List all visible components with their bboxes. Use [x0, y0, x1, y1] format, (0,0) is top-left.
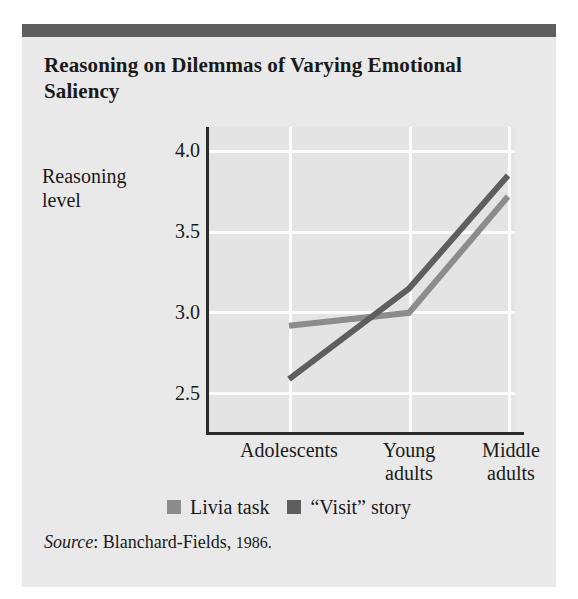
y-tick-3_5: 3.5 [154, 220, 200, 243]
series-line-visit-story [289, 176, 508, 380]
legend-swatch-livia-task [167, 500, 181, 514]
y-axis-title: Reasoning level [42, 164, 152, 212]
x-category-middle-adults-line1: Middle [482, 439, 540, 461]
figure-page: Reasoning on Dilemmas of Varying Emotion… [0, 0, 578, 599]
figure-title: Reasoning on Dilemmas of Varying Emotion… [44, 52, 464, 104]
source-text: Blanchard-Fields, [103, 532, 236, 552]
x-category-young-adults-line1: Young [383, 439, 435, 461]
x-category-middle-adults: Middle adults [457, 439, 565, 485]
figure-card: Reasoning on Dilemmas of Varying Emotion… [22, 24, 556, 587]
x-category-labels: Adolescents Young adults Middle adults [207, 439, 527, 499]
y-tick-4: 4.0 [154, 139, 200, 162]
x-category-young-adults-line2: adults [385, 462, 433, 484]
y-tick-labels: 4.0 3.5 3.0 2.5 [140, 127, 200, 434]
legend-label-visit-story: “Visit” story [310, 496, 410, 519]
source-year: 1986. [236, 534, 272, 551]
legend-label-livia-task: Livia task [190, 496, 269, 519]
source-prefix: Source [44, 532, 93, 552]
source-note: Source: Blanchard-Fields, 1986. [44, 532, 524, 553]
y-tick-2_5: 2.5 [154, 382, 200, 405]
source-separator: : [93, 532, 103, 552]
legend-item-visit-story[interactable]: “Visit” story [287, 496, 410, 519]
card-header-bar [22, 24, 556, 37]
x-category-young-adults: Young adults [355, 439, 463, 485]
chart-legend: Livia task “Visit” story [22, 492, 556, 522]
legend-item-livia-task[interactable]: Livia task [167, 496, 269, 519]
series-lines [207, 127, 515, 434]
x-category-middle-adults-line2: adults [487, 462, 535, 484]
y-tick-3: 3.0 [154, 301, 200, 324]
legend-swatch-visit-story [287, 500, 301, 514]
chart-area: Reasoning level 4.0 3.5 3.0 2.5 [22, 119, 556, 459]
